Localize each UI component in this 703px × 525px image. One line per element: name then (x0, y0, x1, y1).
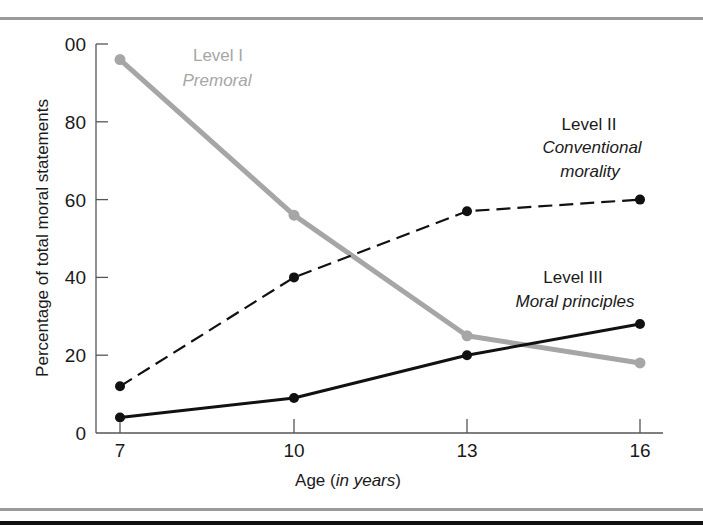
line-chart: 02040608000 7101316 Percentage of total … (0, 0, 703, 525)
y-tick-label: 60 (65, 190, 86, 211)
data-point (635, 195, 645, 205)
level-3-label: Level III Moral principles (515, 268, 635, 311)
y-axis-title: Percentage of total moral statements (33, 99, 52, 377)
x-tick-label: 10 (283, 440, 304, 461)
y-tick-label: 0 (75, 423, 86, 444)
level-1-label: Level I Premoral (183, 46, 253, 90)
data-point (462, 330, 473, 341)
level-2-label: Level II Conventional morality (542, 115, 642, 181)
series-layer (115, 54, 646, 422)
y-tick-label: 40 (65, 267, 86, 288)
x-ticks: 7101316 (115, 419, 651, 461)
y-axis (96, 44, 108, 433)
svg-text:Premoral: Premoral (183, 71, 253, 90)
svg-text:morality: morality (560, 162, 621, 181)
y-tick-label: 00 (65, 34, 86, 55)
data-point (115, 381, 125, 391)
data-point (115, 412, 125, 422)
y-tick-label: 20 (65, 345, 86, 366)
x-axis-title: Age (in years) (295, 471, 401, 490)
data-point (289, 393, 299, 403)
data-point (462, 206, 472, 216)
svg-text:Level II: Level II (562, 115, 617, 134)
data-point (635, 357, 646, 368)
series-level-iii (115, 319, 645, 422)
x-tick-label: 7 (115, 440, 126, 461)
y-tick-label: 80 (65, 112, 86, 133)
data-point (289, 210, 300, 221)
data-point (115, 54, 126, 65)
svg-text:Level III: Level III (543, 268, 603, 287)
data-point (462, 350, 472, 360)
y-ticks: 02040608000 (65, 34, 108, 444)
svg-text:Moral principles: Moral principles (515, 292, 635, 311)
data-point (635, 319, 645, 329)
svg-text:Conventional: Conventional (542, 138, 642, 157)
svg-text:Level I: Level I (193, 46, 243, 65)
data-point (289, 272, 299, 282)
x-tick-label: 13 (456, 440, 477, 461)
series-level-i (115, 54, 646, 368)
x-tick-label: 16 (629, 440, 650, 461)
